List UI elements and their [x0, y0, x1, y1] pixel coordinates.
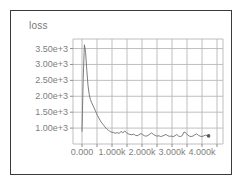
figure-frame: loss 1.00e+31.50e+32.00e+32.50e+33.00e+3… [10, 10, 232, 175]
y-tick-label: 2.50e+3 [35, 75, 68, 85]
y-tick-label: 1.50e+3 [35, 107, 68, 117]
y-tick-label: 1.00e+3 [35, 123, 68, 133]
chart-screenshot: loss 1.00e+31.50e+32.00e+32.50e+33.00e+3… [0, 0, 244, 188]
x-tick-label: 0.000 [71, 147, 94, 157]
y-tick-label: 3.50e+3 [35, 44, 68, 54]
x-tick-label: 3.000k [158, 147, 185, 157]
x-axis-tick-labels: 0.0001.000k2.000k3.000k4.000k [11, 147, 233, 163]
loss-line [82, 45, 209, 137]
y-tick-label: 2.00e+3 [35, 91, 68, 101]
end-point-marker [207, 134, 211, 138]
x-tick-label: 1.000k [98, 147, 125, 157]
x-tick-label: 2.000k [128, 147, 155, 157]
y-axis-tick-labels: 1.00e+31.50e+32.00e+32.50e+33.00e+33.50e… [11, 39, 68, 144]
chart-title: loss [29, 20, 48, 31]
y-tick-label: 3.00e+3 [35, 59, 68, 69]
x-tick-label: 4.000k [188, 147, 215, 157]
loss-curve [73, 39, 223, 144]
plot-area [73, 39, 223, 144]
